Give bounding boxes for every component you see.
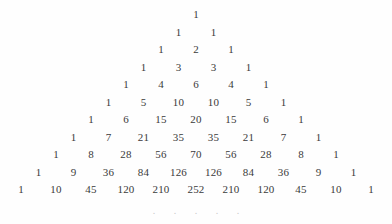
triangle-cell: 21 xyxy=(231,129,266,147)
triangle-cell: 3 xyxy=(196,59,231,77)
triangle-cell: 8 xyxy=(74,146,109,164)
triangle-cell: 5 xyxy=(231,94,266,112)
triangle-row: 121 xyxy=(144,41,249,59)
triangle-cell: 3 xyxy=(161,59,196,77)
triangle-cell: 56 xyxy=(144,146,179,164)
ellipsis-dot: . xyxy=(207,206,228,216)
triangle-row: 14641 xyxy=(109,76,284,94)
triangle-cell: 8 xyxy=(284,146,319,164)
triangle-cell: 4 xyxy=(214,76,249,94)
triangle-cell: 10 xyxy=(39,181,74,199)
triangle-cell: 126 xyxy=(161,164,196,182)
triangle-cell: 84 xyxy=(126,164,161,182)
triangle-cell: 1 xyxy=(249,76,284,94)
triangle-cell: 35 xyxy=(161,129,196,147)
triangle-row: 1331 xyxy=(126,59,266,77)
triangle-cell: 1 xyxy=(179,6,214,24)
triangle-cell: 1 xyxy=(109,76,144,94)
triangle-cell: 10 xyxy=(161,94,196,112)
triangle-cell: 210 xyxy=(144,181,179,199)
triangle-row: 18285670562881 xyxy=(39,146,354,164)
triangle-cell: 1 xyxy=(319,146,354,164)
triangle-cell: 120 xyxy=(109,181,144,199)
ellipsis-dot: . xyxy=(144,206,165,216)
triangle-cell: 6 xyxy=(179,76,214,94)
triangle-cell: 28 xyxy=(249,146,284,164)
triangle-cell: 1 xyxy=(284,111,319,129)
triangle-cell: 9 xyxy=(56,164,91,182)
triangle-cell: 28 xyxy=(109,146,144,164)
triangle-cell: 70 xyxy=(179,146,214,164)
triangle-cell: 2 xyxy=(179,41,214,59)
triangle-cell: 20 xyxy=(179,111,214,129)
triangle-cell: 1 xyxy=(214,41,249,59)
triangle-cell: 6 xyxy=(249,111,284,129)
pascals-triangle-figure: 1111211331146411510105116152015611721353… xyxy=(0,0,392,224)
triangle-cell: 1 xyxy=(4,181,39,199)
triangle-cell: 5 xyxy=(126,94,161,112)
triangle-rows-container: 1111211331146411510105116152015611721353… xyxy=(0,0,392,202)
triangle-row: 11 xyxy=(161,24,231,42)
triangle-cell: 84 xyxy=(231,164,266,182)
ellipsis-dot: . xyxy=(228,206,249,216)
triangle-row: 172135352171 xyxy=(56,129,336,147)
triangle-cell: 45 xyxy=(284,181,319,199)
triangle-cell: 1 xyxy=(74,111,109,129)
triangle-cell: 1 xyxy=(161,24,196,42)
triangle-cell: 1 xyxy=(144,41,179,59)
triangle-cell: 4 xyxy=(144,76,179,94)
triangle-row: 193684126126843691 xyxy=(21,164,371,182)
triangle-cell: 36 xyxy=(266,164,301,182)
triangle-cell: 36 xyxy=(91,164,126,182)
triangle-cell: 56 xyxy=(214,146,249,164)
triangle-cell: 7 xyxy=(266,129,301,147)
triangle-cell: 1 xyxy=(39,146,74,164)
triangle-cell: 1 xyxy=(196,24,231,42)
triangle-cell: 10 xyxy=(196,94,231,112)
ellipsis-dot: . xyxy=(186,206,207,216)
triangle-cell: 120 xyxy=(249,181,284,199)
triangle-cell: 1 xyxy=(231,59,266,77)
triangle-cell: 252 xyxy=(179,181,214,199)
triangle-cell: 7 xyxy=(91,129,126,147)
triangle-cell: 9 xyxy=(301,164,336,182)
triangle-cell: 1 xyxy=(336,164,371,182)
triangle-cell: 1 xyxy=(354,181,389,199)
triangle-cell: 1 xyxy=(56,129,91,147)
triangle-cell: 1 xyxy=(21,164,56,182)
triangle-cell: 210 xyxy=(214,181,249,199)
ellipsis-dot: . xyxy=(165,206,186,216)
triangle-cell: 1 xyxy=(91,94,126,112)
triangle-cell: 35 xyxy=(196,129,231,147)
triangle-cell: 10 xyxy=(319,181,354,199)
triangle-cell: 6 xyxy=(109,111,144,129)
triangle-cell: 1 xyxy=(266,94,301,112)
triangle-cell: 21 xyxy=(126,129,161,147)
triangle-cell: 45 xyxy=(74,181,109,199)
triangle-cell: 1 xyxy=(126,59,161,77)
triangle-row: 1 xyxy=(179,6,214,24)
triangle-cell: 15 xyxy=(144,111,179,129)
triangle-cell: 1 xyxy=(301,129,336,147)
triangle-row: 1615201561 xyxy=(74,111,319,129)
triangle-continuation-ellipsis: ..... xyxy=(0,206,392,216)
triangle-cell: 126 xyxy=(196,164,231,182)
triangle-row: 15101051 xyxy=(91,94,301,112)
triangle-cell: 15 xyxy=(214,111,249,129)
triangle-row: 1104512021025221012045101 xyxy=(4,181,389,199)
